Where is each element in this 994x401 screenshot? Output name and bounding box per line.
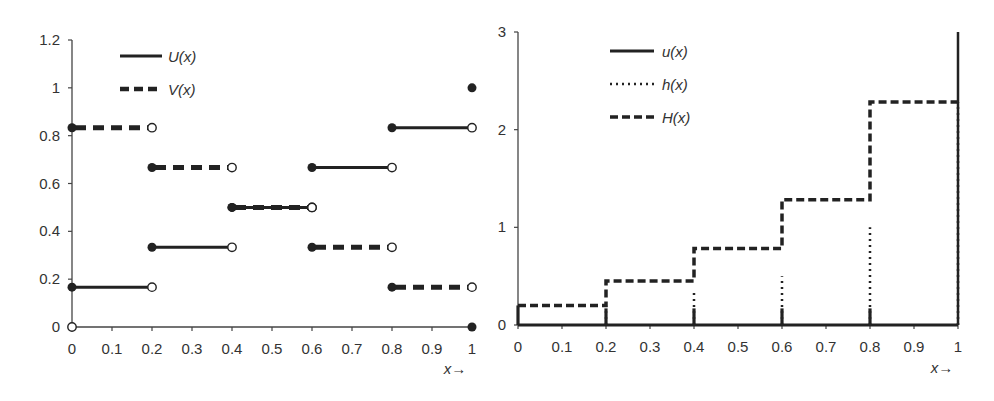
y-tick-label: 0.6 [39,175,60,192]
x-tick-label: 0.7 [816,338,837,355]
filled-endpoint-marker [68,123,77,132]
x-tick-label: 0.4 [684,338,705,355]
x-tick-label: 0.1 [102,340,123,357]
x-tick-label: 0.5 [728,338,749,355]
x-tick-label: 0.8 [860,338,881,355]
x-tick-label: 0.3 [640,338,661,355]
y-tick-label: 1 [52,79,60,96]
filled-endpoint-marker [308,163,317,172]
filled-point-marker [468,323,477,332]
open-endpoint-marker [228,163,236,171]
x-tick-label: 0.9 [422,340,443,357]
y-tick-label: 0 [498,316,506,333]
y-tick-label: 0.8 [39,127,60,144]
x-tick-label: 0.5 [262,340,283,357]
filled-endpoint-marker [228,203,237,212]
x-tick-label: 0.9 [904,338,925,355]
open-endpoint-marker [148,283,156,291]
x-tick-label: 0.1 [552,338,573,355]
x-tick-label: 0 [68,340,76,357]
legend-label-v: V(x) [168,81,196,98]
y-tick-label: 3 [498,23,506,40]
x-tick-label: 0.2 [596,338,617,355]
y-tick-label: 0 [52,318,60,335]
x-tick-label: 0.8 [382,340,403,357]
x-tick-label: 0.2 [142,340,163,357]
filled-endpoint-marker [308,243,317,252]
x-tick-label: 0.4 [222,340,243,357]
open-endpoint-marker [228,243,236,251]
legend-label-u: u(x) [662,43,688,60]
y-tick-label: 0.2 [39,270,60,287]
open-endpoint-marker [308,203,316,211]
legend-label-u: U(x) [168,48,196,65]
filled-endpoint-marker [388,283,397,292]
filled-point-marker [468,83,477,92]
x-tick-label: 0.6 [302,340,323,357]
legend-label-H: H(x) [662,109,690,126]
y-tick-label: 1 [498,218,506,235]
y-tick-label: 0.4 [39,222,60,239]
x-tick-label: 0.3 [182,340,203,357]
open-endpoint-marker [388,243,396,251]
open-endpoint-marker [468,283,476,291]
x-axis-label: x→ [930,359,954,376]
legend-label-h: h(x) [662,76,688,93]
open-endpoint-marker [468,124,476,132]
x-tick-label: 1 [468,340,476,357]
x-tick-label: 1 [954,338,962,355]
y-tick-label: 2 [498,121,506,138]
x-tick-label: 0 [514,338,522,355]
x-tick-label: 0.6 [772,338,793,355]
open-endpoint-marker [388,163,396,171]
H-staircase-line [518,102,958,305]
filled-endpoint-marker [388,123,397,132]
y-tick-label: 1.2 [39,31,60,48]
filled-endpoint-marker [148,163,157,172]
open-point-marker [68,323,76,331]
x-tick-label: 0.7 [342,340,363,357]
left-chart: 00.20.40.60.811.200.10.20.30.40.50.60.70… [0,0,497,401]
filled-endpoint-marker [148,243,157,252]
x-axis-label: x→ [443,360,467,377]
filled-endpoint-marker [68,283,77,292]
open-endpoint-marker [148,124,156,132]
